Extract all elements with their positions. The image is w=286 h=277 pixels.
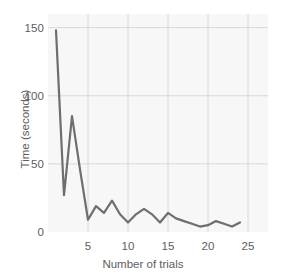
- plot-canvas: [48, 14, 268, 232]
- plot-area: [48, 14, 268, 232]
- data-series-line: [56, 30, 240, 226]
- x-tick-label: 20: [202, 240, 215, 252]
- x-tick-label: 15: [162, 240, 175, 252]
- y-tick-label: 0: [18, 226, 44, 238]
- x-tick-label: 5: [85, 240, 92, 252]
- x-tick-label: 25: [242, 240, 255, 252]
- x-tick-label: 10: [122, 240, 135, 252]
- y-tick-label: 150: [18, 22, 44, 34]
- grid-lines: [48, 14, 268, 232]
- y-axis-label: Time (seconds): [19, 59, 31, 199]
- x-axis-label: Number of trials: [0, 258, 286, 270]
- line-chart-figure: 150 100 50 0 5 10 15 20 25 Number of tri…: [0, 0, 286, 277]
